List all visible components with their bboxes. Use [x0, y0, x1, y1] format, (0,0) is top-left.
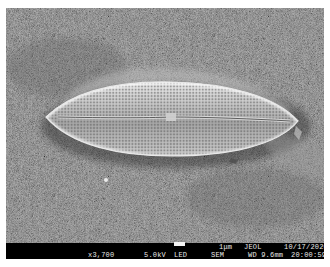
scale-label: 1μm [219, 244, 232, 251]
sem-info-bar: 1μm JEOL 10/17/2020 x3,700 5.0kV LED SEM… [6, 243, 324, 259]
detector-label: LED [174, 252, 187, 259]
scale-bar [174, 242, 185, 246]
working-distance-label: WD 9.6mm [248, 252, 283, 259]
voltage-label: 5.0kV [144, 252, 166, 259]
date-label: 10/17/2020 [284, 244, 324, 251]
magnification-label: x3,700 [88, 252, 114, 259]
mode-label: SEM [211, 252, 224, 259]
sem-image-frame: 1μm JEOL 10/17/2020 x3,700 5.0kV LED SEM… [6, 8, 324, 259]
manufacturer-label: JEOL [244, 244, 262, 251]
sem-micrograph [6, 8, 324, 243]
diatom-micrograph-graphic [6, 8, 324, 243]
time-label: 20:00:59 [291, 252, 324, 259]
